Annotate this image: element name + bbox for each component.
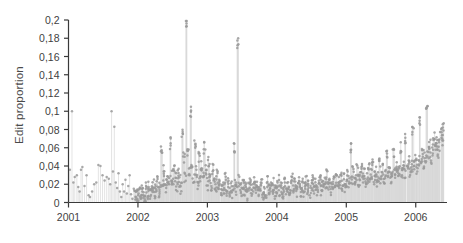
- x-tick-label: 2002: [126, 211, 149, 223]
- x-axis-ticks: [69, 203, 416, 208]
- x-tick-label: 2003: [196, 211, 219, 223]
- y-tick-label: 0,12: [18, 87, 60, 99]
- y-tick-label: 0,04: [18, 160, 60, 172]
- y-tick-label: 0: [18, 197, 60, 209]
- x-tick-label: 2005: [335, 211, 358, 223]
- y-tick-label: 0,02: [18, 178, 60, 190]
- x-tick-label: 2006: [404, 211, 427, 223]
- edit-proportion-chart: Edit proportion 00,020,040,060,080,10,12…: [0, 0, 463, 243]
- x-tick-label: 2001: [57, 211, 80, 223]
- data-points: [69, 20, 445, 203]
- x-tick-label: 2004: [265, 211, 288, 223]
- y-tick-label: 0,14: [18, 69, 60, 81]
- y-tick-label: 0,16: [18, 51, 60, 63]
- y-axis-ticks: [64, 20, 69, 203]
- y-tick-label: 0,1: [18, 105, 60, 117]
- y-tick-label: 0,08: [18, 124, 60, 136]
- plot-area: [0, 0, 463, 243]
- y-tick-label: 0,18: [18, 32, 60, 44]
- y-tick-label: 0,06: [18, 142, 60, 154]
- y-tick-label: 0,2: [18, 14, 60, 26]
